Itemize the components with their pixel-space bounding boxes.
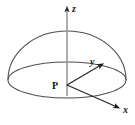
- y-axis-line: [67, 65, 101, 85]
- x-axis-label: x: [123, 105, 128, 115]
- origin-point-label: P: [52, 81, 58, 91]
- x-axis-line: [67, 85, 117, 107]
- y-axis-label: y: [90, 57, 94, 67]
- z-axis-label: z: [72, 4, 76, 14]
- hemisphere-diagram: z y x P: [0, 0, 135, 125]
- hemisphere-figure-svg: [0, 0, 135, 125]
